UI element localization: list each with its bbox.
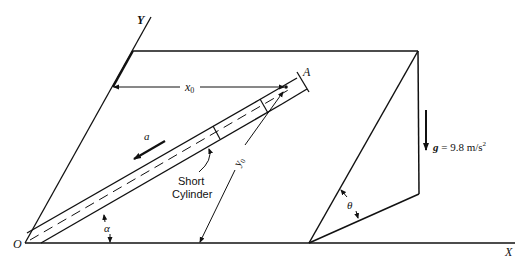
alpha-arrow-upper: [104, 215, 105, 222]
y0-label: y0: [231, 154, 248, 169]
x-axis-label: X: [504, 245, 513, 259]
cylinder-callout-leader: [199, 149, 210, 172]
cylinder-label-line1: Short: [178, 175, 204, 187]
theta-arrow-upper: [341, 190, 347, 197]
plane-left-edge: [113, 51, 133, 87]
point-a-label: A: [302, 65, 311, 79]
x0-label: x0: [184, 80, 194, 95]
cylinder-bottom-edge: [213, 126, 220, 139]
origin-label: O: [13, 237, 22, 251]
plane-right-vertical-edge: [418, 51, 419, 194]
point-a-dot: [284, 85, 288, 89]
plane-bottom-slanted-edge: [309, 194, 419, 243]
gravity-label: g = 9.8 m/s2: [432, 140, 487, 153]
y0-dimension-arrow-down: [200, 170, 235, 242]
y-axis-label: Y: [137, 13, 146, 27]
incline-cylinder-diagram: x0 y0 a Short Cylinder α θ g = 9.8 m/s2 …: [0, 0, 529, 271]
tube-upper-wall: [27, 100, 259, 233]
tube-lower-wall: [41, 104, 282, 243]
tube-upper-wall-ext: [259, 78, 297, 100]
theta-label: θ: [347, 199, 353, 211]
theta-arrow-lower: [356, 211, 358, 218]
cylinder-label-line2: Cylinder: [172, 188, 213, 200]
plane-diagonal-edge: [309, 51, 418, 243]
alpha-label: α: [104, 222, 110, 234]
acceleration-label: a: [144, 130, 150, 142]
y0-dimension-arrow-up: [245, 92, 283, 145]
cylinder-top-edge: [260, 99, 268, 113]
